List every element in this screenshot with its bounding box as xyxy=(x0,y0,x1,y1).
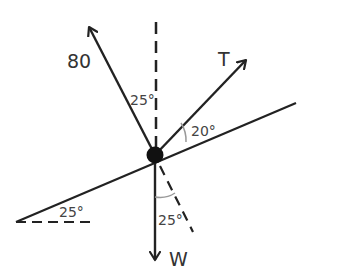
angle-W-normal-label: 25° xyxy=(158,212,183,228)
angle-incline-horizontal-label: 25° xyxy=(59,204,84,220)
force-T-arrow xyxy=(155,60,246,155)
force-W-label: W xyxy=(169,248,188,270)
free-body-diagram: 80 T W 25° 20° 25° 25° xyxy=(0,0,338,271)
force-80-label: 80 xyxy=(67,50,91,72)
force-80-arrow xyxy=(89,27,155,155)
point-mass-dot xyxy=(147,147,164,164)
angle-80-vertical-label: 25° xyxy=(130,92,155,108)
angle-arc-W-normal xyxy=(155,193,175,198)
force-T-label: T xyxy=(217,48,230,70)
angle-T-incline-label: 20° xyxy=(191,123,216,139)
